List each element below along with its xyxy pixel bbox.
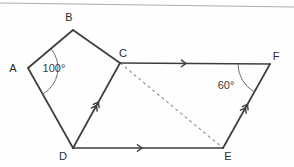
vertex-label-a: A	[9, 62, 17, 74]
vertex-label-c: C	[119, 47, 127, 59]
angle-at-F-label: 60°	[218, 79, 235, 91]
labels-group: 100°60°ABCDEF	[9, 11, 279, 162]
vertex-label-f: F	[273, 50, 280, 62]
dashed-edges-group	[120, 63, 223, 148]
arrow-mark-EF	[240, 104, 248, 113]
arrow-mark-DC	[91, 102, 99, 111]
page-scan-edge	[0, 3, 294, 7]
geometry-figure: 100°60°ABCDEF	[0, 0, 294, 167]
edge-CE	[120, 63, 223, 148]
edge-AD	[28, 68, 73, 148]
edge-EF	[223, 64, 270, 148]
angle-at-A-label: 100°	[43, 62, 66, 74]
vertex-label-d: D	[59, 150, 67, 162]
vertex-label-e: E	[224, 150, 231, 162]
vertex-label-b: B	[65, 11, 72, 23]
edge-BC	[73, 30, 120, 63]
edge-CF	[120, 63, 270, 64]
geometry-canvas: 100°60°ABCDEF	[0, 0, 294, 167]
angle-at-F-arc	[238, 64, 254, 92]
